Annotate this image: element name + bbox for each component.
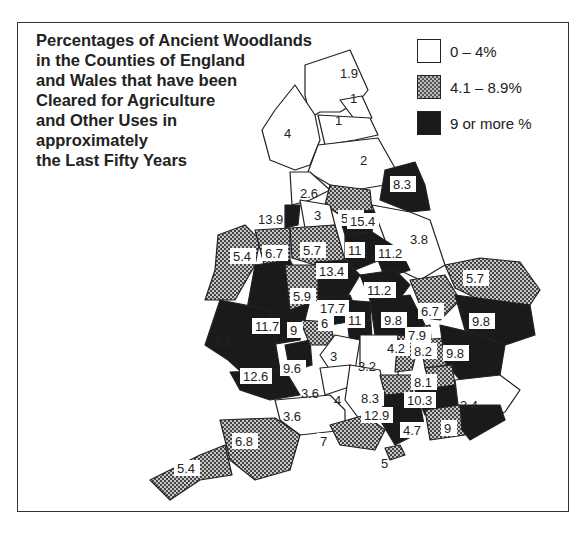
label-1: 1 [350,91,357,106]
svg-text:11: 11 [348,313,362,328]
svg-text:5.7: 5.7 [466,271,484,286]
svg-text:8.2: 8.2 [414,344,432,359]
svg-text:5.7: 5.7 [303,243,321,258]
svg-text:8.3: 8.3 [393,177,411,192]
svg-text:5.4: 5.4 [233,249,251,264]
svg-text:3: 3 [330,349,337,364]
svg-text:9.8: 9.8 [472,314,490,329]
svg-text:9: 9 [444,421,451,436]
svg-text:4.2: 4.2 [387,341,405,356]
svg-text:5.4: 5.4 [177,461,195,476]
svg-text:5.9: 5.9 [293,289,311,304]
label-2.6: 2.6 [300,186,318,201]
svg-text:6.7: 6.7 [421,304,439,319]
svg-text:5: 5 [381,456,388,471]
label-1.9: 1.9 [340,66,358,81]
svg-text:3.2: 3.2 [358,359,376,374]
svg-text:8.3: 8.3 [361,391,379,406]
svg-text:3.6: 3.6 [301,386,319,401]
svg-text:6.8: 6.8 [235,434,253,449]
svg-text:6: 6 [321,316,328,331]
svg-text:9: 9 [290,323,297,338]
label-2: 2 [360,153,367,168]
svg-text:11.7: 11.7 [255,319,279,334]
svg-text:4.7: 4.7 [403,423,421,438]
label-4: 4 [284,126,291,141]
svg-text:3.8: 3.8 [410,232,428,247]
svg-text:13.9: 13.9 [258,212,283,227]
svg-text:3.6: 3.6 [283,409,301,424]
svg-text:9.8: 9.8 [446,346,464,361]
svg-text:15.4: 15.4 [350,214,375,229]
svg-text:11.2: 11.2 [367,283,391,298]
svg-text:8.1: 8.1 [414,375,432,390]
svg-text:17.7: 17.7 [320,301,345,316]
svg-text:13.4: 13.4 [319,264,344,279]
svg-text:7: 7 [320,434,327,449]
svg-text:2.5: 2.5 [214,335,232,350]
svg-text:9.6: 9.6 [283,361,301,376]
svg-text:11: 11 [348,243,362,258]
svg-text:12.6: 12.6 [243,369,268,384]
label-1b: 1 [335,113,342,128]
svg-text:3.4: 3.4 [460,398,478,413]
svg-text:3: 3 [314,208,321,223]
svg-text:12.9: 12.9 [364,408,389,423]
region-merseyside [285,205,300,228]
svg-text:9.8: 9.8 [384,313,402,328]
svg-text:11.2: 11.2 [378,246,402,261]
svg-text:10.3: 10.3 [407,393,432,408]
svg-text:4: 4 [334,393,341,408]
svg-text:6.7: 6.7 [265,246,283,261]
england-wales-map: 1.9 1 4 1 2 8.3 2.6 5.2 13.9 3 15.4 3.8 … [0,0,586,533]
svg-text:7.9: 7.9 [408,328,426,343]
